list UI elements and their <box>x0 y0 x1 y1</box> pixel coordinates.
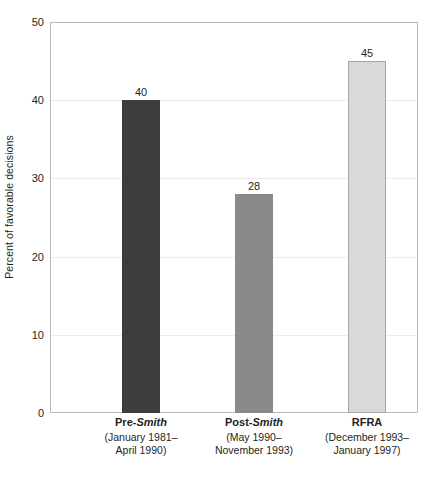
x-category-title-italic: Smith <box>136 416 167 428</box>
bar-value-label: 28 <box>248 181 260 192</box>
bar[interactable]: 40 <box>122 100 160 413</box>
y-axis-title: Percent of favorable decisions <box>0 0 18 413</box>
bar[interactable]: 45 <box>348 61 386 413</box>
bar[interactable]: 28 <box>235 194 273 413</box>
y-tick-label: 0 <box>14 408 44 419</box>
y-tick-label: 30 <box>14 173 44 184</box>
bar-chart: Percent of favorable decisions 010203040… <box>0 0 439 479</box>
x-axis-category-labels: Pre-Smith(January 1981–April 1990)Post-S… <box>50 416 418 476</box>
y-tick-label: 10 <box>14 329 44 340</box>
x-category-label: RFRA(December 1993–January 1997) <box>277 416 439 458</box>
bar-value-label: 40 <box>135 87 147 98</box>
bars-layer: 402845 <box>50 22 418 413</box>
y-tick-label: 20 <box>14 251 44 262</box>
x-category-title: RFRA <box>277 416 439 430</box>
bar-value-label: 45 <box>361 48 373 59</box>
x-category-subtitle-line2: January 1997) <box>277 444 439 458</box>
x-category-subtitle-line1: (December 1993– <box>277 431 439 445</box>
y-tick-label: 50 <box>14 17 44 28</box>
y-tick-label: 40 <box>14 95 44 106</box>
